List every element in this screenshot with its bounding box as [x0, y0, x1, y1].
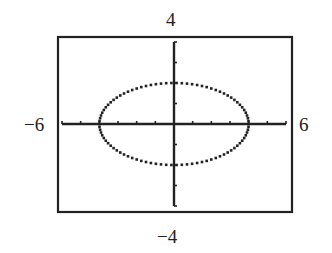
axes	[62, 42, 286, 206]
graph-window	[0, 0, 332, 253]
